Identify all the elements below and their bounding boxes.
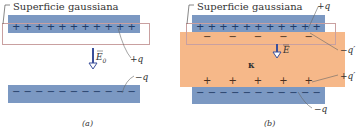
field-arrow-a-icon [89,48,97,69]
leader-minus-qprime [310,33,338,50]
leader-minus-q-b [298,92,312,108]
leader-plus-q-a [118,28,131,58]
leader-surface-a [3,5,10,24]
leader-plus-q-b [308,7,318,29]
field-arrow-b-icon [273,44,281,58]
leader-plus-qprime [312,75,338,82]
leader-surface-b [187,5,194,24]
leader-minus-q-a [122,76,134,93]
annotation-lines [0,0,363,137]
